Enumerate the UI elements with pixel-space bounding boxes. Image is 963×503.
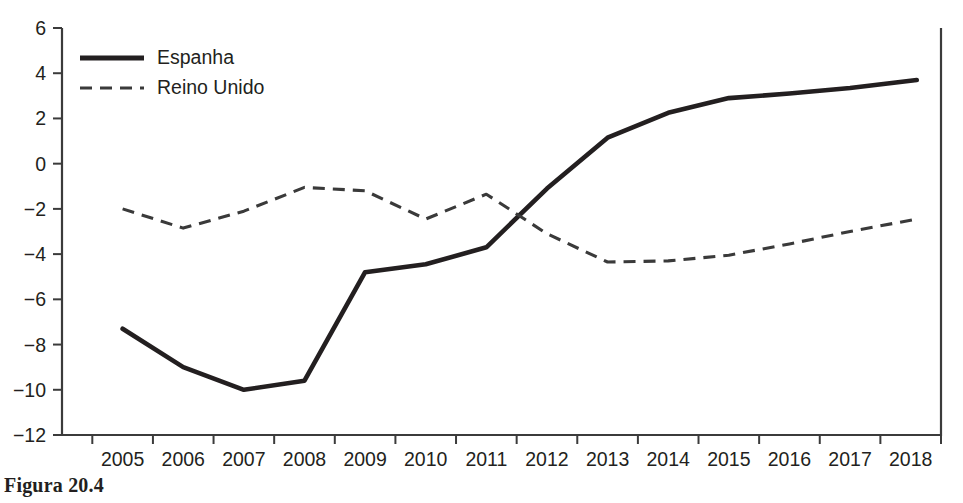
y-tick-label: −8	[24, 334, 46, 356]
y-tick-label: −10	[13, 379, 46, 401]
y-tick-label: −6	[24, 288, 46, 310]
x-tick-label: 2013	[586, 448, 629, 470]
x-tick-label: 2005	[101, 448, 145, 470]
y-tick-label: 4	[35, 62, 46, 84]
x-axis-ticks	[92, 435, 941, 444]
y-axis-tick-labels: 6420−2−4−6−8−10−12	[13, 17, 46, 446]
y-tick-label: −2	[24, 198, 46, 220]
x-tick-label: 2007	[222, 448, 265, 470]
series-line-reino-unido	[123, 187, 917, 262]
x-tick-label: 2016	[768, 448, 811, 470]
x-tick-label: 2006	[162, 448, 205, 470]
y-tick-label: 6	[35, 17, 46, 39]
y-tick-label: −4	[24, 243, 46, 265]
y-tick-label: −12	[13, 424, 46, 446]
legend-label-espanha: Espanha	[157, 46, 234, 68]
chart-series-group	[123, 80, 917, 390]
x-tick-label: 2018	[889, 448, 932, 470]
x-tick-label: 2008	[283, 448, 326, 470]
series-line-espanha	[123, 80, 917, 390]
line-chart: 6420−2−4−6−8−10−12 200520062007200820092…	[0, 0, 963, 470]
x-tick-label: 2017	[828, 448, 871, 470]
figure-container: 6420−2−4−6−8−10−12 200520062007200820092…	[0, 0, 963, 503]
x-tick-label: 2011	[465, 448, 507, 470]
x-tick-label: 2012	[525, 448, 568, 470]
y-tick-label: 0	[35, 153, 46, 175]
x-tick-label: 2010	[404, 448, 448, 470]
y-axis-ticks	[53, 28, 62, 435]
x-tick-label: 2009	[343, 448, 386, 470]
x-tick-label: 2014	[647, 448, 691, 470]
chart-legend: Espanha Reino Unido	[80, 46, 264, 98]
x-axis-tick-labels: 2005200620072008200920102011201220132014…	[101, 448, 932, 470]
y-tick-label: 2	[35, 107, 46, 129]
x-tick-label: 2015	[707, 448, 751, 470]
legend-label-reino-unido: Reino Unido	[157, 76, 264, 98]
figure-caption: Figura 20.4	[4, 474, 104, 497]
